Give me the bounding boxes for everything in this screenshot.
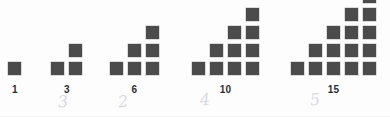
pattern-square: [128, 62, 141, 75]
pattern-square: [246, 62, 259, 75]
pattern-square: [363, 8, 376, 21]
pattern-square: [228, 62, 241, 75]
pattern-square: [146, 44, 159, 57]
pencil-mark-3: 3: [57, 94, 69, 111]
pattern-square: [210, 44, 223, 57]
pattern-square: [128, 44, 141, 57]
pattern-square: [246, 8, 259, 21]
pencil-mark-2: 2: [117, 94, 129, 111]
pattern-square: [228, 26, 241, 39]
pattern-square: [146, 62, 159, 75]
pattern-square: [327, 44, 340, 57]
pattern-square: [327, 26, 340, 39]
group-5-label: 15: [291, 84, 376, 95]
pattern-square: [146, 26, 159, 39]
pattern-square: [291, 62, 304, 75]
pattern-square: [210, 62, 223, 75]
pattern-square: [345, 62, 358, 75]
pattern-square: [345, 44, 358, 57]
pencil-mark-5: 5: [309, 92, 321, 109]
pattern-square: [192, 62, 205, 75]
pattern-square: [246, 44, 259, 57]
pattern-square: [8, 62, 21, 75]
pattern-square: [69, 44, 82, 57]
pattern-square: [228, 44, 241, 57]
pattern-square: [69, 62, 82, 75]
pattern-square: [363, 44, 376, 57]
group-1-label: 1: [8, 84, 22, 95]
pattern-square: [246, 26, 259, 39]
pattern-square: [309, 44, 322, 57]
pencil-mark-4: 4: [199, 92, 211, 109]
pattern-square: [363, 0, 376, 3]
pattern-square: [363, 26, 376, 39]
pattern-square: [309, 62, 322, 75]
page-baseline: [0, 116, 390, 117]
pattern-square: [110, 62, 123, 75]
pattern-square: [345, 26, 358, 39]
pattern-square: [327, 62, 340, 75]
triangular-numbers-figure: 13610153245: [0, 0, 390, 117]
pattern-square: [363, 62, 376, 75]
pattern-square: [345, 8, 358, 21]
pattern-square: [51, 62, 64, 75]
